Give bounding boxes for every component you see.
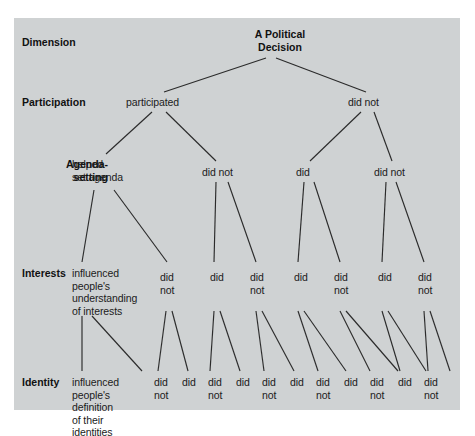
tree-edge-a3-to-i6: [314, 182, 340, 262]
tree-edge-p2-to-a3: [310, 112, 361, 161]
tree-edge-i2-to-d4: [172, 311, 188, 371]
tree-edge-i4-to-d7: [256, 311, 264, 371]
tree-node-agenda-a3: did: [296, 166, 320, 179]
tree-edge-i7-to-d12b: [388, 311, 426, 371]
row-label-participation: Participation: [22, 96, 108, 109]
tree-edge-a4-to-i8: [396, 182, 424, 262]
tree-node-identity-d8: did not: [316, 376, 338, 401]
tree-edge-a1-to-i1: [82, 190, 94, 262]
tree-node-participation-p2: did not: [348, 96, 392, 109]
tree-node-interests-i5: did: [294, 271, 318, 284]
tree-edge-i3-to-d5: [210, 311, 214, 371]
tree-edge-i8-to-d12d: [430, 311, 450, 371]
tree-edge-p1-to-a1: [106, 112, 152, 154]
tree-node-interests-i6: did not: [334, 271, 358, 296]
tree-node-agenda-a2: did not: [202, 166, 246, 179]
tree-node-identity-d11: did: [398, 376, 420, 389]
tree-node-root: A Political Decision: [245, 28, 315, 53]
tree-edge-i6-to-d12: [346, 311, 398, 371]
tree-node-identity-d1: influenced people's definition of their …: [72, 376, 150, 436]
tree-node-interests-i1: influenced people's understanding of int…: [72, 267, 152, 317]
tree-node-identity-d12: did not: [424, 376, 446, 401]
tree-node-identity-d4: did not: [208, 376, 230, 401]
diagram-frame: DimensionParticipationAgenda- settingInt…: [14, 18, 460, 410]
tree-edge-a3-to-i5: [298, 182, 304, 262]
tree-node-interests-i4: did not: [250, 271, 274, 296]
tree-edge-i5-to-d10: [304, 311, 346, 371]
tree-edge-i3-to-d6: [220, 311, 240, 371]
tree-node-identity-d2: did not: [154, 376, 176, 401]
tree-edge-i7-to-d11b: [382, 311, 400, 371]
tree-edge-a2-to-i3: [214, 182, 216, 262]
tree-edge-i4-to-d8: [262, 311, 294, 371]
tree-node-identity-d10: did not: [370, 376, 392, 401]
tree-edge-i6-to-d11: [340, 311, 370, 371]
tree-edge-a2-to-i4: [228, 182, 256, 262]
tree-edge-i8-to-d12c: [424, 311, 428, 371]
row-label-dimension: Dimension: [22, 36, 108, 49]
tree-node-interests-i2: did not: [160, 271, 184, 296]
tree-node-interests-i3: did: [210, 271, 234, 284]
tree-edge-a1-to-i2: [114, 190, 167, 262]
tree-node-identity-d9: did: [344, 376, 366, 389]
tree-edge-root-to-p2: [276, 58, 366, 92]
tree-edge-root-to-p1: [164, 58, 266, 92]
tree-node-interests-i7: did: [378, 271, 402, 284]
tree-edge-i5-to-d9: [298, 311, 318, 371]
tree-edge-i2-to-d3: [158, 311, 166, 371]
tree-edge-a4-to-i7: [382, 182, 386, 262]
tree-node-participation-p1: participated: [126, 96, 192, 109]
tree-node-agenda-a1: helped set agenda: [72, 158, 142, 183]
tree-edges: [14, 18, 460, 410]
tree-node-identity-d7: did: [290, 376, 312, 389]
tree-node-agenda-a4: did not: [374, 166, 418, 179]
tree-node-identity-d6: did not: [262, 376, 284, 401]
tree-edge-p2-to-a4: [374, 112, 392, 161]
tree-node-interests-i8: did not: [418, 271, 442, 296]
tree-edge-p1-to-a2: [166, 112, 216, 161]
tree-node-identity-d3: did: [182, 376, 204, 389]
tree-node-identity-d5: did: [236, 376, 258, 389]
tree-edge-i1-to-d2: [92, 316, 142, 371]
